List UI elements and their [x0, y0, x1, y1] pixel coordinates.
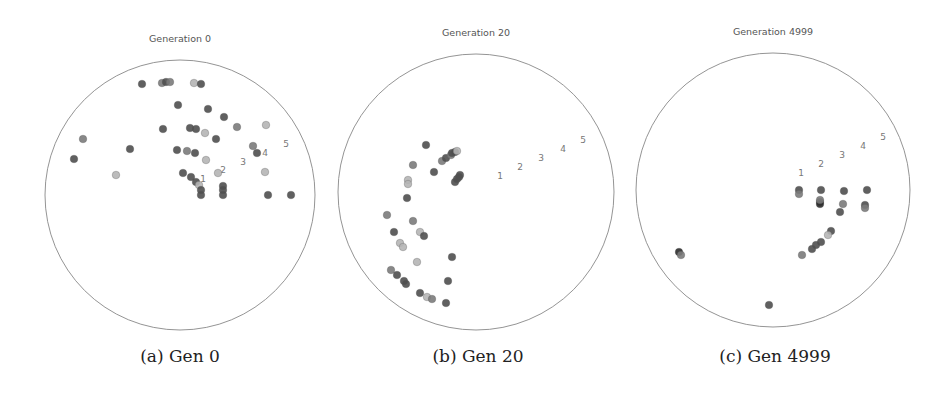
data-point: [138, 80, 146, 88]
data-point: [420, 232, 428, 240]
panel-title: Generation 4999: [733, 26, 813, 37]
data-point: [456, 171, 464, 179]
data-point: [404, 180, 412, 188]
axis-label: 1: [798, 168, 804, 178]
data-point: [233, 123, 241, 131]
data-point: [448, 253, 456, 261]
axis-label: 4: [860, 141, 866, 151]
data-point: [422, 141, 430, 149]
data-point: [262, 121, 270, 129]
axis-label: 1: [497, 171, 503, 181]
data-point: [201, 129, 209, 137]
data-point: [220, 113, 228, 121]
data-point: [390, 228, 398, 236]
data-point: [202, 156, 210, 164]
data-point: [197, 191, 205, 199]
data-point: [863, 186, 871, 194]
data-point: [191, 149, 199, 157]
data-point: [403, 194, 411, 202]
axis-label: 5: [580, 135, 586, 145]
data-point: [159, 125, 167, 133]
data-point: [824, 231, 832, 239]
data-point: [861, 204, 869, 212]
data-point: [179, 169, 187, 177]
axis-label: 3: [538, 153, 544, 163]
caption-a: (a) Gen 0: [140, 346, 220, 366]
data-point: [70, 155, 78, 163]
data-point: [677, 251, 685, 259]
data-point: [839, 200, 847, 208]
axis-label: 2: [517, 162, 523, 172]
circular-frame: [338, 54, 614, 330]
data-point: [444, 277, 452, 285]
axis-label: 5: [283, 139, 289, 149]
data-point: [253, 149, 261, 157]
data-point: [795, 190, 803, 198]
data-point: [287, 191, 295, 199]
axis-label: 4: [560, 144, 566, 154]
data-point: [399, 243, 407, 251]
axis-label: 3: [240, 157, 246, 167]
data-point: [264, 191, 272, 199]
axis-label: 4: [262, 148, 268, 158]
data-point: [409, 161, 417, 169]
data-point: [197, 80, 205, 88]
caption-c: (c) Gen 4999: [719, 346, 830, 366]
data-point: [816, 196, 824, 204]
data-point: [183, 147, 191, 155]
panel-title: Generation 0: [149, 33, 211, 44]
data-point: [79, 135, 87, 143]
axis-label: 5: [880, 132, 886, 142]
data-point: [204, 105, 212, 113]
data-point: [173, 146, 181, 154]
figure-panels: Generation 012345Generation 2012345Gener…: [0, 0, 945, 340]
data-point: [817, 186, 825, 194]
caption-b: (b) Gen 20: [432, 346, 523, 366]
panel-title: Generation 20: [442, 27, 510, 38]
data-point: [174, 101, 182, 109]
data-point: [402, 280, 410, 288]
data-point: [413, 258, 421, 266]
data-point: [383, 211, 391, 219]
panel-b: Generation 2012345: [338, 27, 614, 330]
circular-frame: [45, 60, 315, 330]
data-point: [249, 142, 257, 150]
panel-c: Generation 499912345: [636, 26, 910, 327]
panel-a: Generation 012345: [45, 33, 315, 330]
data-point: [190, 79, 198, 87]
data-point: [261, 168, 269, 176]
data-point: [765, 301, 773, 309]
data-point: [442, 299, 450, 307]
data-point: [430, 168, 438, 176]
data-point: [428, 295, 436, 303]
data-point: [840, 187, 848, 195]
data-point: [836, 208, 844, 216]
data-point: [112, 171, 120, 179]
data-point: [416, 289, 424, 297]
axis-label: 2: [818, 159, 824, 169]
data-point: [219, 191, 227, 199]
data-point: [126, 145, 134, 153]
data-point: [214, 169, 222, 177]
data-point: [808, 245, 816, 253]
axis-label: 3: [839, 150, 845, 160]
data-point: [409, 217, 417, 225]
data-point: [453, 147, 461, 155]
data-point: [192, 125, 200, 133]
data-point: [212, 135, 220, 143]
data-point: [166, 78, 174, 86]
data-point: [393, 271, 401, 279]
data-point: [798, 251, 806, 259]
